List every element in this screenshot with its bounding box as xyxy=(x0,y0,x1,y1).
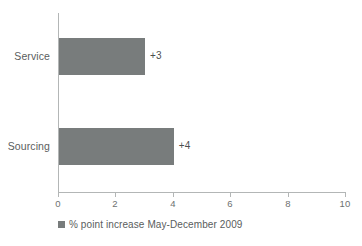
x-axis-tick-label: 4 xyxy=(170,198,175,209)
bar-value-sourcing: +4 xyxy=(179,140,190,151)
x-axis-tick xyxy=(173,193,174,197)
bar-value-service: +3 xyxy=(150,50,161,61)
x-axis-tick-label: 6 xyxy=(227,198,232,209)
legend-label: % point increase May-December 2009 xyxy=(69,219,242,230)
x-axis-tick xyxy=(288,193,289,197)
bar-service xyxy=(59,38,145,75)
category-label-service: Service xyxy=(14,50,50,62)
x-axis-tick xyxy=(115,193,116,197)
chart-legend: % point increase May-December 2009 xyxy=(58,219,242,230)
x-axis-tick-label: 2 xyxy=(112,198,117,209)
x-axis-tick-label: 0 xyxy=(55,198,60,209)
bar-sourcing xyxy=(59,128,174,165)
x-axis-line xyxy=(58,192,346,193)
category-label-sourcing: Sourcing xyxy=(8,140,50,152)
x-axis-tick-label: 10 xyxy=(340,198,351,209)
x-axis-tick xyxy=(58,193,59,197)
x-axis-tick xyxy=(345,193,346,197)
legend-swatch-icon xyxy=(58,221,65,228)
x-axis-tick-label: 8 xyxy=(285,198,290,209)
x-axis-tick xyxy=(230,193,231,197)
bar-chart: 0 2 4 6 8 10 Service Sourcing +3 +4 % po… xyxy=(0,0,362,246)
